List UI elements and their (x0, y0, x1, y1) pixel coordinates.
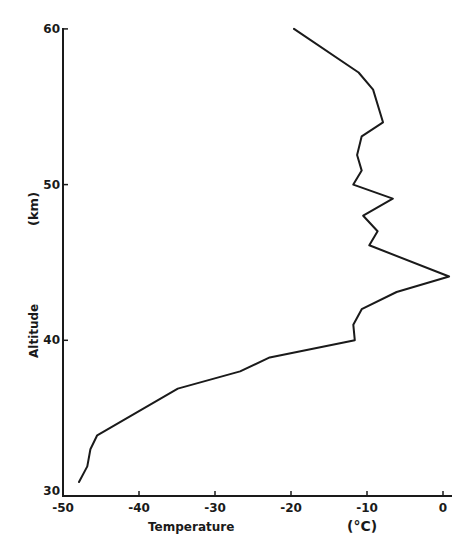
x-tick-label: -10 (356, 501, 378, 515)
temperature-altitude-chart: -50-40-30-20-100 30405060 Temperature (°… (0, 0, 475, 554)
x-tick-label: -30 (204, 501, 226, 515)
axes (62, 28, 452, 497)
x-axis-label: Temperature (148, 520, 234, 534)
x-tick-label: -50 (52, 501, 74, 515)
y-tick-label: 60 (43, 22, 60, 36)
x-tick-label: -20 (280, 501, 302, 515)
x-ticks: -50-40-30-20-100 (52, 491, 447, 515)
y-tick-label: 40 (43, 333, 60, 347)
y-tick-label: 50 (43, 178, 60, 192)
temperature-profile-line (79, 29, 449, 482)
x-axis-unit: (°C) (347, 518, 377, 534)
y-axis-unit: (km) (26, 192, 41, 226)
y-tick-label: 30 (43, 484, 60, 498)
x-tick-label: -40 (128, 501, 150, 515)
x-tick-label: 0 (439, 501, 447, 515)
y-axis-label: Altitude (27, 304, 41, 358)
y-ticks: 30405060 (43, 22, 68, 498)
